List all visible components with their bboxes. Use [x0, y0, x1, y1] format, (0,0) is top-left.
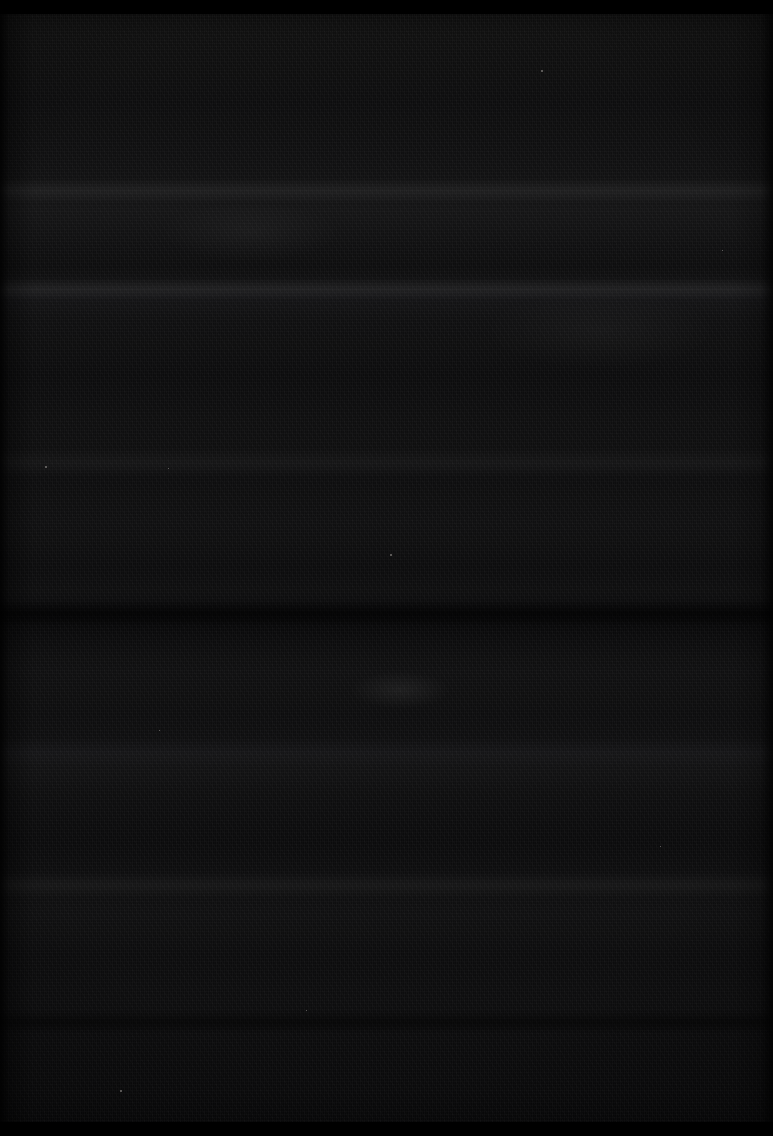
lint-speck — [159, 730, 160, 731]
lint-speck — [541, 70, 543, 72]
edge-vignette — [0, 0, 773, 1136]
fabric-base-layer — [0, 0, 773, 1136]
weft-grain-texture — [0, 0, 773, 1136]
lint-speck — [306, 1010, 307, 1011]
weave-ridge-bands — [0, 0, 773, 1136]
twill-sheen-texture — [0, 0, 773, 1136]
lint-speck — [722, 250, 723, 251]
scalloped-bottom-edge — [0, 1122, 773, 1136]
lint-speck — [120, 1090, 122, 1092]
lint-speck — [390, 554, 392, 556]
lint-speck — [45, 466, 47, 468]
textile-photograph: Extreme close-up photograph of a dark, n… — [0, 0, 773, 1136]
lint-speck-layer — [0, 0, 773, 1136]
scalloped-top-edge — [0, 0, 773, 14]
lint-speck — [168, 468, 169, 469]
warp-grain-texture — [0, 0, 773, 1136]
fold-highlight-streak — [0, 0, 773, 1136]
lint-speck — [660, 846, 661, 847]
